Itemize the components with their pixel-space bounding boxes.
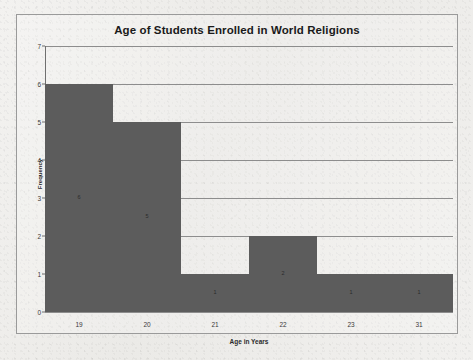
plot-area: 01234567 651211 Age in Years 19202122233… [45, 46, 453, 312]
gridline [45, 312, 453, 313]
bar-value-label: 1 [181, 290, 249, 296]
y-tick-label: 1 [37, 271, 41, 278]
y-tick-label: 3 [37, 195, 41, 202]
bar-value-label: 2 [249, 271, 317, 277]
bar[interactable]: 1 [317, 274, 385, 312]
bar[interactable]: 6 [45, 84, 113, 312]
bar[interactable]: 5 [113, 122, 181, 312]
x-axis-label: Age in Years [45, 338, 453, 345]
x-tick-label: 19 [75, 321, 82, 328]
x-tick-label: 21 [211, 321, 218, 328]
bar[interactable]: 2 [249, 236, 317, 312]
x-tick-label: 23 [347, 321, 354, 328]
chart-title: Age of Students Enrolled in World Religi… [17, 24, 457, 36]
y-tick-label: 6 [37, 81, 41, 88]
y-tick-label: 2 [37, 233, 41, 240]
bar-value-label: 1 [385, 290, 453, 296]
y-tick-label: 7 [37, 43, 41, 50]
x-tick-label: 31 [415, 321, 422, 328]
y-tick-label: 4 [37, 157, 41, 164]
bar[interactable]: 1 [181, 274, 249, 312]
bar-value-label: 1 [317, 290, 385, 296]
chart-figure: Age of Students Enrolled in World Religi… [16, 14, 458, 334]
x-tick-label: 20 [143, 321, 150, 328]
bar[interactable]: 1 [385, 274, 453, 312]
bar-series: 651211 [45, 46, 453, 312]
x-tick-label: 22 [279, 321, 286, 328]
bar-value-label: 5 [113, 214, 181, 220]
y-tick-label: 5 [37, 119, 41, 126]
y-tick-label: 0 [37, 309, 41, 316]
bar-value-label: 6 [45, 195, 113, 201]
